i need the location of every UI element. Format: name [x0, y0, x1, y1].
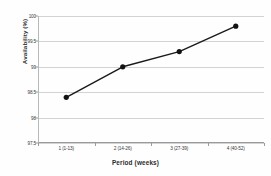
data-point-marker	[177, 49, 182, 54]
x-axis-title: Period (weeks)	[0, 159, 271, 166]
x-axis-tick-mark	[38, 143, 39, 146]
y-axis-tick-label: 100	[2, 14, 36, 19]
x-axis-tick-label: 3 (27-39)	[149, 146, 209, 151]
x-axis-tick-label: 1 (1-13)	[36, 146, 96, 151]
y-axis-tick-label: 98.5	[2, 90, 36, 95]
data-point-marker	[64, 95, 69, 100]
availability-line-chart: Availability (%) 10099.59998.59897.5 1 (…	[0, 0, 271, 176]
x-axis-tick-label: 4 (40-52)	[206, 146, 266, 151]
y-axis-tick-labels: 10099.59998.59897.5	[0, 16, 36, 143]
data-point-marker	[233, 24, 238, 29]
y-axis-tick-label: 97.5	[2, 141, 36, 146]
y-axis-tick-label: 99.5	[2, 39, 36, 44]
x-axis-tick-label: 2 (14-26)	[93, 146, 153, 151]
data-point-marker	[120, 64, 125, 69]
x-axis-tick-mark	[151, 143, 152, 146]
plot-area	[38, 16, 264, 143]
x-axis-tick-mark	[95, 143, 96, 146]
data-series-line	[38, 16, 264, 143]
series-line	[66, 26, 236, 97]
x-axis-tick-mark	[208, 143, 209, 146]
y-axis-tick-label: 99	[2, 64, 36, 69]
x-axis-tick-mark	[264, 143, 265, 146]
y-axis-tick-label: 98	[2, 115, 36, 120]
